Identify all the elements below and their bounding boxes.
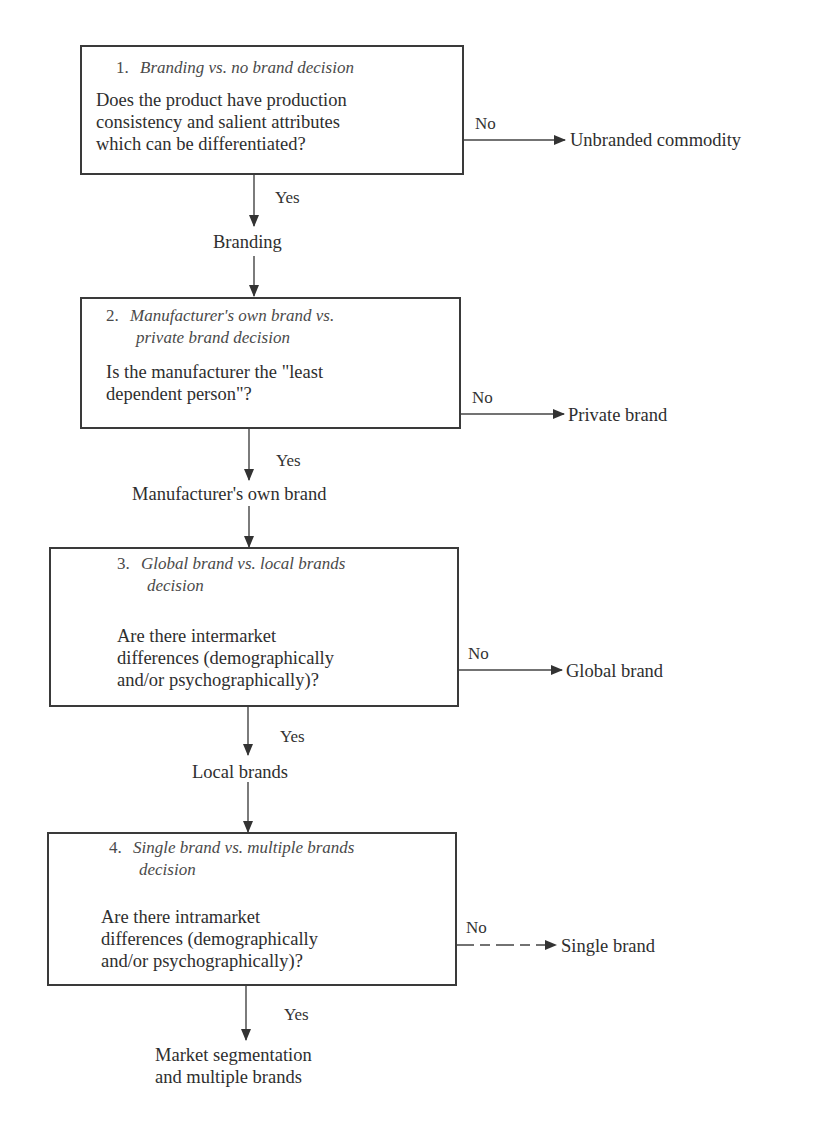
outcome-branding: Branding [213, 231, 282, 253]
no-label-1: No [475, 114, 496, 134]
question-line: differences (demographically [117, 647, 334, 669]
decision-question-1: Does the product have production consist… [96, 89, 347, 155]
outcome-private-brand: Private brand [568, 404, 667, 426]
yes-label-1: Yes [275, 188, 300, 208]
decision-number: 4. [109, 837, 133, 859]
outcome-market-segmentation: Market segmentation and multiple brands [155, 1044, 312, 1088]
decision-box-1: 1.Branding vs. no brand decision Does th… [80, 45, 464, 175]
decision-question-3: Are there intermarket differences (demog… [117, 625, 334, 691]
no-label-3: No [468, 644, 489, 664]
yes-label-4: Yes [284, 1005, 309, 1025]
decision-title-3: 3.Global brand vs. local brands decision [117, 553, 345, 597]
outcome-unbranded-commodity: Unbranded commodity [570, 129, 741, 151]
question-line: Does the product have production [96, 89, 347, 111]
decision-title-line2: private brand decision [106, 327, 334, 349]
decision-title-text: Global brand vs. local brands [141, 554, 345, 573]
question-line: and/or psychographically)? [117, 669, 334, 691]
outcome-manufacturers-own-brand: Manufacturer's own brand [132, 483, 326, 505]
question-line: and/or psychographically)? [101, 950, 318, 972]
decision-number: 2. [106, 305, 130, 327]
outcome-local-brands: Local brands [192, 761, 288, 783]
no-label-2: No [472, 388, 493, 408]
outcome-line: Market segmentation [155, 1044, 312, 1066]
decision-question-2: Is the manufacturer the "least dependent… [106, 361, 323, 405]
no-label-4: No [466, 918, 487, 938]
question-line: consistency and salient attributes [96, 111, 347, 133]
question-line: Are there intermarket [117, 625, 334, 647]
decision-box-2: 2.Manufacturer's own brand vs. private b… [80, 297, 461, 429]
decision-number: 1. [116, 57, 140, 79]
decision-box-4: 4.Single brand vs. multiple brands decis… [47, 832, 457, 986]
question-line: differences (demographically [101, 928, 318, 950]
yes-label-2: Yes [276, 451, 301, 471]
question-line: dependent person"? [106, 383, 323, 405]
outcome-single-brand: Single brand [561, 935, 655, 957]
decision-title-text: Single brand vs. multiple brands [133, 838, 354, 857]
decision-title-2: 2.Manufacturer's own brand vs. private b… [106, 305, 334, 349]
decision-title-4: 4.Single brand vs. multiple brands decis… [109, 837, 354, 881]
decision-number: 3. [117, 553, 141, 575]
decision-title-text: Manufacturer's own brand vs. [130, 306, 334, 325]
decision-title-1: 1.Branding vs. no brand decision [116, 57, 354, 79]
decision-title-text: Branding vs. no brand decision [140, 58, 354, 77]
question-line: which can be differentiated? [96, 133, 347, 155]
outcome-global-brand: Global brand [566, 660, 663, 682]
question-line: Is the manufacturer the "least [106, 361, 323, 383]
outcome-line: and multiple brands [155, 1066, 312, 1088]
decision-title-line2: decision [109, 859, 354, 881]
decision-question-4: Are there intramarket differences (demog… [101, 906, 318, 972]
decision-box-3: 3.Global brand vs. local brands decision… [49, 547, 459, 707]
yes-label-3: Yes [280, 727, 305, 747]
question-line: Are there intramarket [101, 906, 318, 928]
decision-title-line2: decision [117, 575, 345, 597]
